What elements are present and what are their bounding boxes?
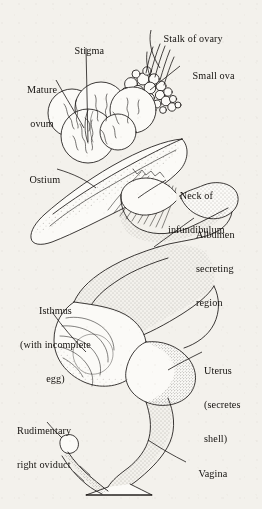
label-rudimentary-right-oviduct: Rudimentary right oviduct xyxy=(17,402,71,493)
figure-caption xyxy=(0,499,262,509)
label-line: right oviduct xyxy=(17,459,71,470)
label-albumen-secreting-region: Albumen secreting region xyxy=(196,206,235,331)
label-mature-ovum: Mature ovum xyxy=(27,61,57,152)
label-line: Mature xyxy=(27,84,57,95)
label-line: secreting xyxy=(196,263,235,274)
label-line: ovum xyxy=(27,118,57,129)
label-stigma: Stigma xyxy=(64,34,104,68)
label-line: shell) xyxy=(204,433,241,444)
label-line: egg) xyxy=(20,373,91,384)
label-stalk-of-ovary: Stalk of ovary xyxy=(153,22,223,56)
label-line: Uterus xyxy=(204,365,241,376)
label-line: region xyxy=(196,297,235,308)
label-line: Neck of xyxy=(168,190,225,201)
label-uterus: Uterus (secretes shell) xyxy=(204,342,241,467)
label-line: Stigma xyxy=(75,45,104,56)
label-line: Stalk of ovary xyxy=(164,33,223,44)
label-line: (secretes xyxy=(204,399,241,410)
label-ostium: Ostium xyxy=(19,163,60,197)
label-line: Albumen xyxy=(196,229,235,240)
label-line: Isthmus xyxy=(20,305,91,316)
label-line: Small ova xyxy=(193,70,235,81)
label-line: (with incomplete xyxy=(20,339,91,350)
label-isthmus: Isthmus (with incomplete egg) xyxy=(20,282,91,407)
label-line: Vagina xyxy=(198,468,227,479)
label-line: Ostium xyxy=(30,174,61,185)
label-small-ova: Small ova xyxy=(182,59,235,93)
label-line: Rudimentary xyxy=(17,425,71,436)
label-vagina: Vagina xyxy=(188,457,227,491)
anatomical-figure: Stalk of ovary Stigma Small ova Mature o… xyxy=(0,0,262,509)
